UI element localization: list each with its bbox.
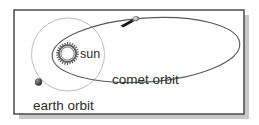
earth-icon: [35, 78, 42, 85]
comet-orbit-diagram: sun comet orbit earth orbit: [0, 0, 259, 125]
comet-orbit-label: comet orbit: [112, 72, 179, 87]
earth-orbit-label: earth orbit: [33, 98, 94, 113]
diagram-canvas: sun comet orbit earth orbit: [0, 0, 259, 125]
sun-label: sun: [80, 47, 100, 61]
